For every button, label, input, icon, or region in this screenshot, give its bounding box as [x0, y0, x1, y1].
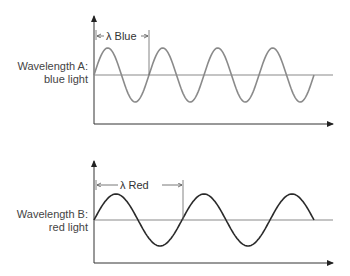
- panel-b-axes: [94, 161, 333, 263]
- wavelength-a-subtitle: blue light: [0, 73, 88, 86]
- lambda-red-label: λ Red: [118, 179, 151, 191]
- wavelength-b-subtitle: red light: [0, 221, 88, 234]
- wavelength-a-title: Wavelength A:: [0, 60, 88, 73]
- wavelength-b-title: Wavelength B:: [0, 208, 88, 221]
- wavelength-b-label: Wavelength B: red light: [0, 208, 88, 234]
- wave-diagram: [0, 0, 350, 276]
- lambda-blue-label: λ Blue: [104, 30, 139, 42]
- wavelength-a-label: Wavelength A: blue light: [0, 60, 88, 86]
